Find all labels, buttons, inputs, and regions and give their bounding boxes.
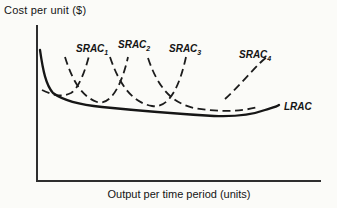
- srac2-curve: [65, 57, 128, 102]
- x-axis-title: Output per time period (units): [37, 188, 321, 200]
- srac4-label: SRAC4: [239, 49, 271, 62]
- cost-curves-chart: Cost per unit ($) SRAC1 SRAC2 SRAC3 SRAC…: [0, 0, 337, 208]
- srac3-curve: [110, 57, 186, 106]
- srac1-label: SRAC1: [76, 43, 108, 56]
- srac2-label: SRAC2: [118, 39, 150, 52]
- srac3-label: SRAC3: [169, 43, 201, 56]
- lrac-label: LRAC: [284, 101, 312, 112]
- srac1-curve: [42, 56, 89, 95]
- y-axis-title: Cost per unit ($): [4, 4, 86, 16]
